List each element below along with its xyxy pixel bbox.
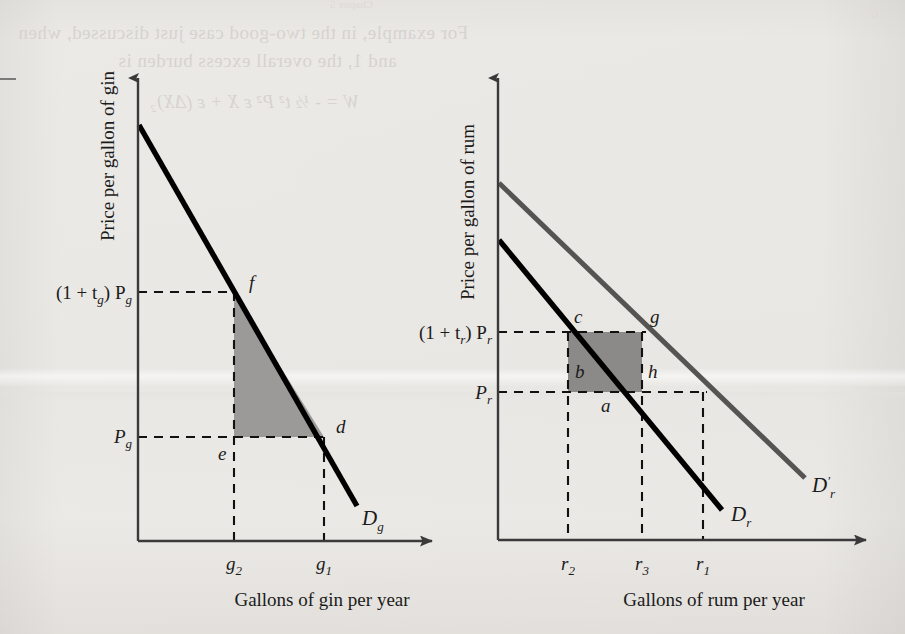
figure-page: Chapter 5 For example, in the two-good c… [0, 0, 905, 634]
gin-point-label-e: e [218, 443, 226, 464]
rum-tick-label-r3: r3 [635, 553, 649, 578]
rum-point-label-b: b [575, 361, 585, 382]
gin-tax-price-sub2: g [126, 292, 133, 307]
rum-point-label-g: g [650, 306, 660, 327]
rum-point-label-a: a [601, 395, 611, 416]
rum-tax-price-part2: ) P [465, 322, 487, 344]
gin-producer-price-sub: g [126, 436, 133, 451]
rum-chart: Price per gallon of rum Gallons of rum p… [419, 78, 866, 610]
gin-tick-label-g1: g1 [316, 553, 332, 578]
gin-tax-price-part1: (1 + t [56, 282, 98, 304]
rum-price-label-producer: Pr [474, 382, 493, 407]
gin-y-axis-title: Price per gallon of gin [97, 71, 118, 241]
gin-price-label-tax-inclusive: (1 + tg) Pg [56, 282, 132, 307]
rum-tax-price-sub2: r [487, 332, 493, 347]
svg-text:Pr: Pr [474, 382, 493, 407]
rum-y-axis-title: Price per gallon of rum [457, 124, 478, 300]
rum-curve-prime-sub: r [830, 486, 836, 501]
rum-tick-label-r2: r2 [561, 553, 575, 578]
rum-point-label-h: h [648, 361, 658, 382]
gin-tick-g2-sub: 2 [236, 563, 243, 578]
gin-x-axis-title: Gallons of gin per year [234, 589, 410, 610]
gin-tick-g1-sub: 1 [326, 563, 333, 578]
gin-producer-price-base: P [113, 426, 126, 447]
svg-text:(1 + tr) Pr: (1 + tr) Pr [419, 322, 493, 347]
rum-curve-label-shifted: D′r [811, 473, 836, 501]
gin-curve-label-base: D [361, 506, 377, 530]
gin-chart: Price per gallon of gin Gallons of gin p… [56, 71, 432, 610]
gin-tick-label-g2: g2 [226, 553, 243, 578]
rum-tick-r2-sub: 2 [568, 563, 575, 578]
gin-curve-label-sub: g [377, 519, 384, 534]
svg-text:Pg: Pg [113, 426, 133, 451]
economics-figure: Price per gallon of gin Gallons of gin p… [0, 0, 905, 634]
rum-producer-price-base: P [474, 382, 487, 403]
rum-tick-r1-sub: 1 [703, 563, 710, 578]
gin-tick-g2-base: g [226, 553, 236, 574]
rum-x-axis-title: Gallons of rum per year [623, 589, 805, 610]
rum-demand-curve-shifted [499, 183, 805, 478]
gin-tax-price-part2: ) P [104, 282, 126, 304]
gin-point-label-f: f [249, 272, 257, 293]
gin-point-label-d: d [336, 416, 346, 437]
rum-demand-curve-original [499, 240, 722, 510]
gin-tick-g1-base: g [316, 553, 326, 574]
gin-demand-curve [139, 125, 357, 506]
svg-text:(1 + tg) Pg: (1 + tg) Pg [56, 282, 132, 307]
rum-tick-r3-sub: 3 [641, 563, 649, 578]
rum-curve-label-base: D [730, 502, 746, 526]
gin-price-label-producer: Pg [113, 426, 133, 451]
rum-curve-prime-base: D [811, 473, 827, 497]
rum-point-label-c: c [574, 306, 583, 327]
rum-curve-label-sub: r [746, 515, 752, 530]
gin-curve-label: Dg [361, 506, 384, 534]
rum-price-label-tax-inclusive: (1 + tr) Pr [419, 322, 493, 347]
rum-tax-price-part1: (1 + t [419, 322, 461, 344]
rum-producer-price-sub: r [487, 392, 493, 407]
rum-tick-label-r1: r1 [696, 553, 710, 578]
rum-curve-label-original: Dr [730, 502, 752, 530]
